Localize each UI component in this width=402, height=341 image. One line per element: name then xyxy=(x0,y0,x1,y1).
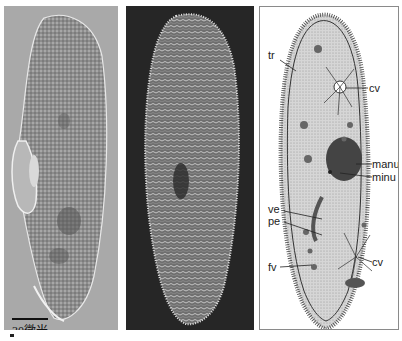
micrograph-panel-light: 30微米 xyxy=(4,6,118,330)
scale-bar-label: 30微米 xyxy=(12,321,48,330)
label-cv-bottom: cv xyxy=(372,257,383,268)
paramecium-sem-image xyxy=(126,6,254,330)
micrograph-panel-sem xyxy=(126,6,254,330)
label-manu: manu xyxy=(372,159,399,170)
label-ve: ve xyxy=(268,204,280,215)
label-pe: pe xyxy=(268,216,280,227)
label-minu: minu xyxy=(372,172,396,183)
scale-bar xyxy=(12,318,48,320)
illustration-panel: tr cv manu minu ve pe cv fv xyxy=(259,6,399,330)
paramecium-light-image xyxy=(4,6,118,330)
label-tr: tr xyxy=(268,50,275,61)
label-fv: fv xyxy=(268,262,277,273)
label-cv-top: cv xyxy=(369,83,380,94)
caption-marker xyxy=(10,334,14,337)
